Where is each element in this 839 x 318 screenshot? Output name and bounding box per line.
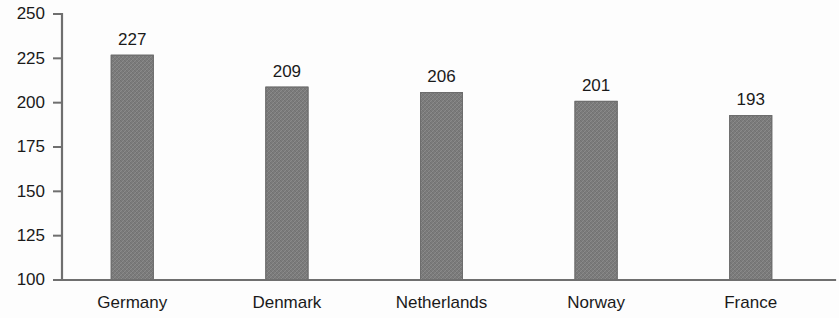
bar-value-label: 209 — [273, 62, 301, 81]
y-axis-tick-label: 100 — [17, 270, 45, 289]
category-label: France — [724, 293, 777, 312]
y-axis-tick-label: 250 — [17, 4, 45, 23]
y-axis-tick-label: 175 — [17, 137, 45, 156]
bar-texture-overlay — [575, 101, 618, 280]
bar-value-label: 206 — [427, 67, 455, 86]
bar-texture-overlay — [729, 115, 772, 280]
bar-value-label: 193 — [737, 90, 765, 109]
category-label: Norway — [567, 293, 625, 312]
bar-value-label: 201 — [582, 76, 610, 95]
category-axis-labels: GermanyDenmarkNetherlandsNorwayFrance — [97, 293, 777, 312]
y-axis: 100125150175200225250 — [17, 4, 62, 289]
bar-series — [111, 55, 772, 280]
y-axis-tick-label: 150 — [17, 182, 45, 201]
bar-value-label: 227 — [118, 30, 146, 49]
bar-chart-figure: 100125150175200225250 227209206201193 Ge… — [0, 0, 839, 318]
category-label: Germany — [97, 293, 167, 312]
bar-texture-overlay — [265, 87, 308, 280]
category-label: Netherlands — [396, 293, 488, 312]
y-axis-tick-label: 225 — [17, 49, 45, 68]
bar-texture-overlay — [420, 92, 463, 280]
y-axis-tick-label: 125 — [17, 226, 45, 245]
bar-texture-overlay — [111, 55, 154, 280]
chart-canvas: 100125150175200225250 227209206201193 Ge… — [0, 0, 839, 318]
category-label: Denmark — [252, 293, 321, 312]
y-axis-tick-label: 200 — [17, 93, 45, 112]
